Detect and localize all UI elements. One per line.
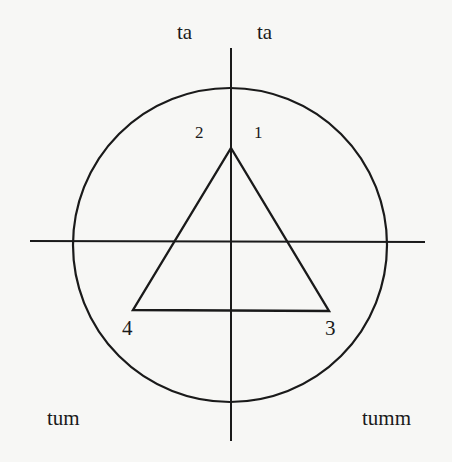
- label-bottom-right: tumm: [362, 408, 411, 429]
- label-top-left: ta: [177, 22, 192, 43]
- label-vertex-2: 2: [195, 124, 204, 141]
- diagram-figure: [0, 0, 452, 462]
- diagram-canvas: ta ta 2 1 4 3 tum tumm: [0, 0, 452, 462]
- label-top-right: ta: [257, 22, 272, 43]
- label-bottom-left: tum: [47, 408, 80, 429]
- horizontal-axis: [30, 241, 425, 242]
- label-vertex-1: 1: [254, 124, 263, 141]
- label-vertex-3: 3: [325, 318, 336, 339]
- label-vertex-4: 4: [122, 318, 133, 339]
